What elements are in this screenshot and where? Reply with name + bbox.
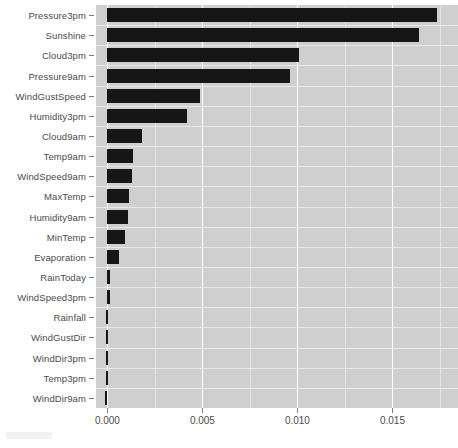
y-tick-label-Cloud3pm: Cloud3pm xyxy=(42,50,86,61)
bar-Temp3pm xyxy=(106,371,108,385)
y-tick-label-Rainfall: Rainfall xyxy=(54,312,86,323)
corner-artifact xyxy=(6,432,52,439)
gridline-row-3 xyxy=(96,65,458,66)
gridline-row-6 xyxy=(96,126,458,127)
y-tick-label-Temp9am: Temp9am xyxy=(44,151,86,162)
y-tick-label-Pressure9am: Pressure9am xyxy=(28,70,86,81)
y-tick-mark-WindSpeed9am xyxy=(89,176,94,177)
gridline-row-19 xyxy=(96,388,458,389)
y-axis: Pressure3pmSunshineCloud3pmPressure9amWi… xyxy=(0,5,96,408)
y-tick-mark-WindSpeed3pm xyxy=(89,297,94,298)
y-tick-mark-Cloud9am xyxy=(89,136,94,137)
y-tick-mark-Pressure3pm xyxy=(89,15,94,16)
y-tick-mark-Humidity9am xyxy=(89,217,94,218)
gridline-row-8 xyxy=(96,166,458,167)
gridline-row-13 xyxy=(96,267,458,268)
x-tick-label-0.000: 0.000 xyxy=(95,415,120,426)
bar-Evaporation xyxy=(107,250,119,264)
bar-Pressure3pm xyxy=(107,8,437,22)
y-tick-label-WindGustSpeed: WindGustSpeed xyxy=(16,90,86,101)
bar-Pressure9am xyxy=(107,69,290,83)
y-tick-mark-Temp9am xyxy=(89,156,94,157)
gridline-row-16 xyxy=(96,327,458,328)
y-tick-mark-Sunshine xyxy=(89,35,94,36)
bar-WindDir9am xyxy=(105,391,107,405)
gridline-row-1 xyxy=(96,25,458,26)
gridline-row-9 xyxy=(96,186,458,187)
bar-WindDir3pm xyxy=(106,351,108,365)
y-tick-mark-WindDir9am xyxy=(89,398,94,399)
gridline-row-12 xyxy=(96,247,458,248)
bar-WindGustDir xyxy=(106,330,108,344)
y-tick-mark-WindDir3pm xyxy=(89,358,94,359)
bar-WindSpeed3pm xyxy=(107,290,109,304)
y-tick-label-MinTemp: MinTemp xyxy=(47,231,86,242)
x-tick-label-0.005: 0.005 xyxy=(190,415,215,426)
y-tick-mark-RainToday xyxy=(89,277,94,278)
gridline-row-5 xyxy=(96,106,458,107)
y-tick-mark-Humidity3pm xyxy=(89,116,94,117)
bar-MinTemp xyxy=(107,230,125,244)
bar-MaxTemp xyxy=(107,189,129,203)
y-tick-label-Humidity9am: Humidity9am xyxy=(29,211,86,222)
x-tick-label-0.010: 0.010 xyxy=(285,415,310,426)
bar-WindSpeed9am xyxy=(107,169,132,183)
bar-Cloud9am xyxy=(107,129,142,143)
y-tick-mark-MaxTemp xyxy=(89,196,94,197)
bar-Humidity9am xyxy=(107,210,127,224)
y-tick-label-WindGustDir: WindGustDir xyxy=(31,332,86,343)
y-tick-mark-Pressure9am xyxy=(89,76,94,77)
x-tick-mark-0.005 xyxy=(202,408,203,413)
feature-importance-chart: Pressure3pmSunshineCloud3pmPressure9amWi… xyxy=(0,0,458,448)
gridline-row-14 xyxy=(96,287,458,288)
y-tick-label-Temp3pm: Temp3pm xyxy=(44,372,86,383)
y-tick-label-WindSpeed9am: WindSpeed9am xyxy=(17,171,86,182)
bar-RainToday xyxy=(107,270,110,284)
y-tick-label-Pressure3pm: Pressure3pm xyxy=(28,10,86,21)
y-tick-label-RainToday: RainToday xyxy=(40,272,86,283)
gridline-row-17 xyxy=(96,348,458,349)
x-axis: 0.0000.0050.0100.015 xyxy=(96,408,458,448)
y-tick-label-Humidity3pm: Humidity3pm xyxy=(29,110,86,121)
y-tick-mark-Cloud3pm xyxy=(89,55,94,56)
y-tick-mark-Evaporation xyxy=(89,257,94,258)
x-tick-label-0.015: 0.015 xyxy=(380,415,405,426)
y-tick-label-Cloud9am: Cloud9am xyxy=(42,130,86,141)
y-tick-label-MaxTemp: MaxTemp xyxy=(44,191,86,202)
y-tick-mark-WindGustDir xyxy=(89,337,94,338)
bar-Humidity3pm xyxy=(107,109,187,123)
x-tick-mark-0.010 xyxy=(297,408,298,413)
y-tick-label-Evaporation: Evaporation xyxy=(34,251,86,262)
gridline-row-2 xyxy=(96,45,458,46)
gridline-row-18 xyxy=(96,368,458,369)
y-tick-mark-MinTemp xyxy=(89,237,94,238)
y-tick-label-WindDir3pm: WindDir3pm xyxy=(33,352,86,363)
x-tick-mark-0.015 xyxy=(392,408,393,413)
gridline-row-10 xyxy=(96,207,458,208)
bar-WindGustSpeed xyxy=(107,89,200,103)
y-tick-label-WindDir9am: WindDir9am xyxy=(33,392,86,403)
x-tick-mark-0.000 xyxy=(107,408,108,413)
y-tick-mark-Rainfall xyxy=(89,317,94,318)
gridline-row-11 xyxy=(96,227,458,228)
bar-Temp9am xyxy=(107,149,133,163)
gridline-row-7 xyxy=(96,146,458,147)
y-tick-mark-Temp3pm xyxy=(89,378,94,379)
y-tick-label-Sunshine: Sunshine xyxy=(46,30,86,41)
gridline-row-4 xyxy=(96,86,458,87)
bar-Cloud3pm xyxy=(107,48,299,62)
y-tick-mark-WindGustSpeed xyxy=(89,96,94,97)
y-tick-label-WindSpeed3pm: WindSpeed3pm xyxy=(17,292,86,303)
gridline-row-15 xyxy=(96,307,458,308)
bar-Rainfall xyxy=(106,310,108,324)
plot-area xyxy=(96,5,458,408)
bar-Sunshine xyxy=(107,28,419,42)
